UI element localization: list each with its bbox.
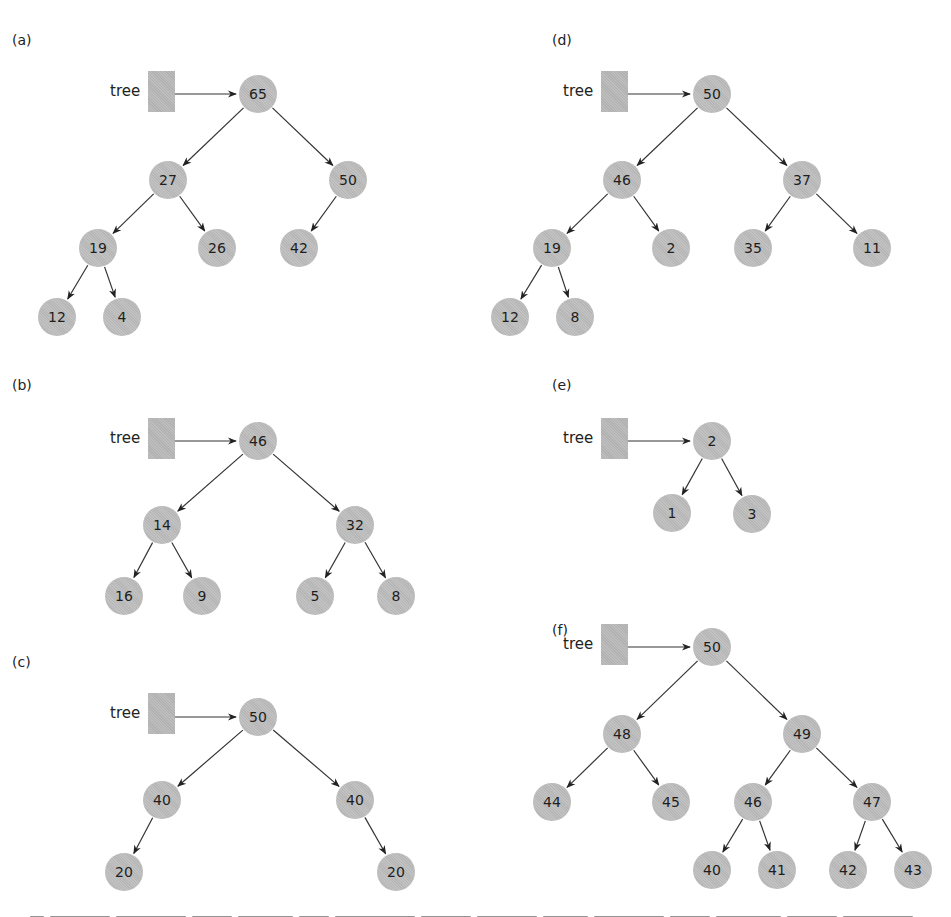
tree-node: 47 <box>853 783 891 821</box>
tree-node: 40 <box>693 851 731 889</box>
tree-node: 8 <box>556 298 594 336</box>
node-value: 4 <box>118 309 127 325</box>
tree-edge-arrow <box>105 267 116 297</box>
node-value: 11 <box>863 240 881 256</box>
node-value: 20 <box>115 864 133 880</box>
tree-node: 4 <box>103 298 141 336</box>
tree-node: 46 <box>603 161 641 199</box>
panel-label: (b) <box>12 377 32 393</box>
tree-edge-arrow <box>765 196 790 231</box>
node-value: 45 <box>662 794 680 810</box>
tree-edge-arrow <box>178 454 243 511</box>
tree-edge-arrow <box>726 661 787 720</box>
tree-edge-arrow <box>723 819 743 852</box>
node-value: 50 <box>339 172 357 188</box>
tree-node: 27 <box>149 161 187 199</box>
node-value: 41 <box>768 862 786 878</box>
tree-edge-arrow <box>558 267 568 297</box>
tree-edge-arrow <box>113 194 154 233</box>
tree-edge-arrow <box>68 265 88 299</box>
tree-edge-arrow <box>634 750 659 785</box>
tree-edge-arrow <box>134 818 153 854</box>
node-value: 50 <box>703 86 721 102</box>
tree-pointer-box <box>148 71 175 112</box>
tree-pointer-label: tree <box>563 82 593 100</box>
node-value: 48 <box>613 726 631 742</box>
tree-node: 2 <box>652 229 690 267</box>
tree-pointer-box <box>601 624 628 665</box>
tree-node: 50 <box>239 698 277 736</box>
tree-node: 65 <box>239 75 277 113</box>
node-value: 8 <box>392 588 401 604</box>
tree-edge-arrow <box>365 542 385 577</box>
tree-edge-arrow <box>273 730 339 786</box>
tree-node: 5 <box>296 577 334 615</box>
tree-pointer-label: tree <box>110 429 140 447</box>
tree-node: 45 <box>652 783 690 821</box>
tree-node: 46 <box>239 422 277 460</box>
tree-edge-arrow <box>855 821 865 850</box>
tree-pointer-label: tree <box>110 704 140 722</box>
tree-edge-arrow <box>722 459 742 496</box>
tree-edge-arrow <box>180 196 205 231</box>
node-value: 32 <box>346 517 364 533</box>
tree-pointer-box <box>148 693 175 734</box>
tree-edge-arrow <box>521 265 542 299</box>
edges-layer <box>0 0 951 917</box>
tree-pointer-box <box>148 418 175 459</box>
tree-edge-arrow <box>134 543 153 578</box>
node-value: 1 <box>668 505 677 521</box>
tree-node: 2 <box>693 422 731 460</box>
node-value: 9 <box>198 588 207 604</box>
node-value: 16 <box>115 588 133 604</box>
tree-node: 19 <box>533 229 571 267</box>
tree-edge-arrow <box>816 748 857 787</box>
panel-label: (c) <box>12 654 31 670</box>
node-value: 49 <box>793 726 811 742</box>
tree-node: 50 <box>693 628 731 666</box>
tree-node: 11 <box>853 229 891 267</box>
tree-edge-arrow <box>325 542 345 577</box>
node-value: 50 <box>249 709 267 725</box>
tree-edge-arrow <box>172 542 192 577</box>
tree-node: 12 <box>491 298 529 336</box>
tree-pointer-box <box>601 418 628 459</box>
tree-node: 41 <box>758 851 796 889</box>
node-value: 37 <box>793 172 811 188</box>
node-value: 50 <box>703 639 721 655</box>
tree-edge-arrow <box>637 108 697 166</box>
node-value: 2 <box>708 433 717 449</box>
tree-edge-arrow <box>272 108 332 166</box>
tree-pointer-label: tree <box>110 82 140 100</box>
tree-edge-arrow <box>726 108 786 166</box>
node-value: 26 <box>208 240 226 256</box>
tree-node: 48 <box>603 715 641 753</box>
tree-node: 50 <box>693 75 731 113</box>
tree-pointer-label: tree <box>563 635 593 653</box>
node-value: 12 <box>48 309 66 325</box>
panel-label: (a) <box>12 32 32 48</box>
node-value: 46 <box>744 794 762 810</box>
node-value: 8 <box>571 309 580 325</box>
tree-pointer-box <box>601 71 628 112</box>
tree-node: 20 <box>377 853 415 891</box>
node-value: 12 <box>501 309 519 325</box>
tree-edge-arrow <box>816 194 857 233</box>
tree-node: 46 <box>734 783 772 821</box>
tree-edge-arrow <box>637 661 698 720</box>
tree-node: 1 <box>653 494 691 532</box>
node-value: 44 <box>543 794 561 810</box>
tree-node: 9 <box>183 577 221 615</box>
node-value: 65 <box>249 86 267 102</box>
tree-node: 40 <box>336 781 374 819</box>
node-value: 20 <box>387 864 405 880</box>
panel-label: (e) <box>552 377 572 393</box>
tree-node: 49 <box>783 715 821 753</box>
tree-edge-arrow <box>183 108 243 166</box>
tree-edge-arrow <box>365 817 386 853</box>
tree-node: 8 <box>377 577 415 615</box>
tree-edge-arrow <box>273 454 339 511</box>
tree-node: 40 <box>143 781 181 819</box>
tree-node: 12 <box>38 298 76 336</box>
node-value: 2 <box>667 240 676 256</box>
